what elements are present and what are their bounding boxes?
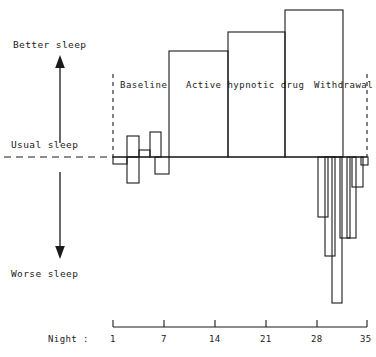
x-tick-label-7: 7 xyxy=(161,334,167,344)
arrow-up-icon xyxy=(55,55,65,143)
arrow-down-icon xyxy=(55,172,65,259)
x-tick-label-28: 28 xyxy=(311,334,322,344)
bar-night-5 xyxy=(150,132,161,157)
bars-withdrawal-group xyxy=(318,157,368,303)
x-tick-label-14: 14 xyxy=(209,334,220,344)
bar-week-14-20 xyxy=(228,32,285,157)
x-axis-caption: Night : xyxy=(48,334,89,344)
bar-night-29 xyxy=(325,157,335,256)
y-axis-bottom-label: Worse sleep xyxy=(11,268,78,279)
y-axis-top-label: Better sleep xyxy=(13,39,86,50)
phase-label-group: Baseline Active hypnotic drug Withdrawal xyxy=(120,80,373,90)
x-tick-label-21: 21 xyxy=(260,334,271,344)
sleep-quality-step-chart: Better sleep Usual sleep Worse sleep xyxy=(0,0,376,357)
phase-label-active-drug: Active hypnotic drug xyxy=(186,80,304,90)
y-axis-group: Better sleep Usual sleep Worse sleep xyxy=(11,39,86,279)
bar-night-28 xyxy=(318,157,328,217)
bar-night-3 xyxy=(127,157,139,183)
bars-baseline-group xyxy=(113,132,169,183)
phase-label-withdrawal: Withdrawal xyxy=(314,80,373,90)
bar-night-6 xyxy=(155,157,169,174)
y-axis-zero-label: Usual sleep xyxy=(11,139,78,150)
phase-label-baseline: Baseline xyxy=(120,80,167,90)
bar-night-4 xyxy=(139,150,150,157)
figure-root: Better sleep Usual sleep Worse sleep xyxy=(0,0,376,357)
bar-week-7-13 xyxy=(169,51,228,157)
bar-night-34 xyxy=(361,157,368,165)
x-axis-tick-labels: 1 7 14 21 28 35 xyxy=(110,334,371,344)
x-tick-label-35: 35 xyxy=(360,334,371,344)
bar-night-1 xyxy=(113,157,127,164)
bar-night-2 xyxy=(127,136,139,157)
x-axis-ruler xyxy=(113,320,367,327)
x-tick-label-1: 1 xyxy=(110,334,116,344)
